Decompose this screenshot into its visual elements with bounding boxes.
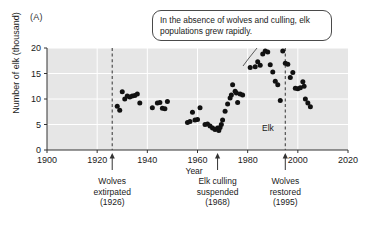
data-point: [165, 99, 170, 104]
data-point: [235, 100, 240, 105]
y-axis-ticks: 05101520: [31, 43, 47, 155]
event-annotation-line: (1926): [72, 197, 152, 208]
x-tick-label: 1940: [137, 155, 157, 165]
data-point: [300, 79, 305, 84]
data-point: [229, 92, 234, 97]
data-point: [265, 50, 270, 55]
data-point: [258, 63, 263, 68]
x-axis-title: Year: [186, 166, 203, 176]
data-point: [253, 64, 258, 69]
y-tick-label: 5: [36, 120, 41, 130]
data-point: [302, 84, 307, 89]
data-point: [248, 65, 253, 70]
x-axis-ticks: 1900192019401960198020002020: [37, 150, 358, 165]
event-annotation-wolves-extirpated: Wolvesextirpated(1926): [72, 176, 152, 208]
x-tick-label: 2020: [338, 155, 358, 165]
y-tick-label: 10: [31, 94, 41, 104]
event-annotation-line: restored: [245, 187, 325, 198]
event-arrow-head: [215, 153, 220, 159]
data-point: [162, 106, 167, 111]
event-arrow-head: [110, 153, 115, 159]
data-point: [223, 109, 228, 114]
callout-annotation: In the absence of wolves and culling, el…: [152, 10, 332, 41]
event-annotation-line: Wolves: [245, 176, 325, 187]
data-point: [220, 117, 225, 122]
y-tick-label: 0: [36, 145, 41, 155]
data-point: [275, 82, 280, 87]
data-point: [280, 49, 285, 54]
y-tick-label: 15: [31, 69, 41, 79]
data-point: [288, 75, 293, 80]
event-annotation-line: (1995): [245, 197, 325, 208]
y-tick-label: 20: [31, 43, 41, 53]
series-label-elk: Elk: [262, 123, 275, 133]
data-point: [150, 105, 155, 110]
data-point: [135, 91, 140, 96]
data-point: [270, 69, 275, 74]
x-tick-label: 1900: [37, 155, 57, 165]
data-point: [240, 92, 245, 97]
event-annotation-line: Wolves: [72, 176, 152, 187]
data-point: [278, 98, 283, 103]
data-point: [230, 82, 235, 87]
data-point: [198, 105, 203, 110]
x-tick-label: 1960: [187, 155, 207, 165]
data-point: [157, 100, 162, 105]
data-point: [285, 62, 290, 67]
data-point: [308, 104, 313, 109]
x-tick-label: 2000: [288, 155, 308, 165]
event-annotation-line: extirpated: [72, 187, 152, 198]
x-tick-label: 1980: [238, 155, 258, 165]
figure-panel-a: (A) Number of elk (thousand) 05101520 19…: [0, 0, 369, 229]
data-point: [120, 89, 125, 94]
data-point: [137, 101, 142, 106]
data-point: [195, 117, 200, 122]
x-tick-label: 1920: [87, 155, 107, 165]
data-point: [219, 122, 224, 127]
data-point: [290, 70, 295, 75]
data-point: [190, 110, 195, 115]
data-point: [117, 108, 122, 113]
event-annotation-wolves-restored: Wolvesrestored(1995): [245, 176, 325, 208]
data-point: [268, 62, 273, 67]
data-point: [187, 119, 192, 124]
data-point: [225, 102, 230, 107]
